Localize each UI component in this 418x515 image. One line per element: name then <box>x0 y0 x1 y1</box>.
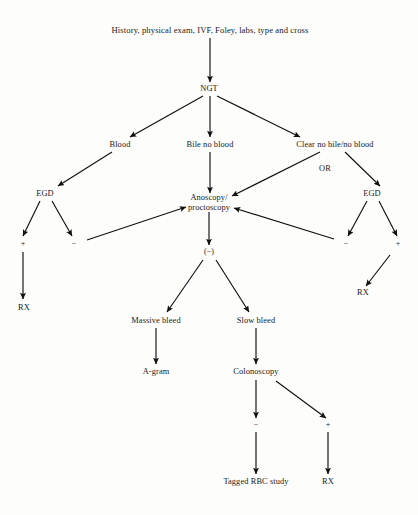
node-label-line: History, physical exam, IVF, Foley, labs… <box>112 25 309 35</box>
node-egd_left: EGD <box>36 189 54 199</box>
node-or: OR <box>319 164 331 174</box>
edge-clear-to-anoscopy <box>232 152 320 196</box>
node-label-line: + <box>21 239 26 249</box>
edge-egd_right-to-egdr_pos <box>379 201 397 236</box>
node-label-line: Bile no blood <box>187 140 234 150</box>
node-rx_right: RX <box>357 288 369 298</box>
node-label-line: Tagged RBC study <box>223 477 288 487</box>
node-slow: Slow bleed <box>237 316 275 326</box>
node-label-line: − <box>254 420 259 430</box>
node-egdr_neg: − <box>344 239 349 249</box>
node-clear: Clear no bile/no blood <box>296 140 373 150</box>
edge-egdr_neg-to-anoscopy <box>234 208 334 239</box>
edge-ano_neg-to-massive <box>167 260 203 312</box>
node-label-line: A-gram <box>143 367 170 377</box>
node-label-line: proctoscopy <box>188 203 230 213</box>
edge-colonoscopy-to-colo_pos <box>276 381 326 418</box>
node-colo_pos: + <box>326 420 331 430</box>
node-tagged: Tagged RBC study <box>223 477 288 487</box>
node-label-line: − <box>344 239 349 249</box>
node-label-line: RX <box>322 477 334 487</box>
node-label-line: EGD <box>363 189 381 199</box>
edge-ngt-to-blood <box>130 96 203 137</box>
node-label-line: + <box>326 420 331 430</box>
node-label-line: Colonoscopy <box>233 367 278 377</box>
node-label-line: − <box>72 239 77 249</box>
node-label-line: NGT <box>200 84 218 94</box>
node-label-line: Blood <box>110 140 131 150</box>
node-label-line: Massive bleed <box>131 316 180 326</box>
node-label-line: OR <box>319 164 331 174</box>
node-anoscopy: Anoscopy/proctoscopy <box>188 193 230 212</box>
node-label-line: (−) <box>204 247 214 257</box>
edge-ano_neg-to-slow <box>216 260 249 312</box>
node-egd_right: EGD <box>363 189 381 199</box>
node-blood: Blood <box>110 140 131 150</box>
node-egdr_pos: + <box>396 239 401 249</box>
node-initial: History, physical exam, IVF, Foley, labs… <box>112 25 309 35</box>
edge-egdr_pos-to-rx_right <box>366 255 390 286</box>
node-colo_neg: − <box>254 420 259 430</box>
edge-egd_left-to-egdl_pos <box>23 201 40 236</box>
edge-ngt-to-clear <box>217 96 300 137</box>
edge-egdl_neg-to-anoscopy <box>87 207 186 240</box>
node-colonoscopy: Colonoscopy <box>233 367 278 377</box>
node-ano_neg: (−) <box>204 247 214 257</box>
node-label-line: Clear no bile/no blood <box>296 140 373 150</box>
node-egdl_pos: + <box>21 239 26 249</box>
node-label-line: + <box>396 239 401 249</box>
node-rx_left: RX <box>18 303 30 313</box>
node-egdl_neg: − <box>72 239 77 249</box>
node-ngt: NGT <box>200 84 218 94</box>
node-massive: Massive bleed <box>131 316 180 326</box>
node-bile: Bile no blood <box>187 140 234 150</box>
flowchart-canvas: History, physical exam, IVF, Foley, labs… <box>0 0 418 515</box>
node-label-line: RX <box>18 303 30 313</box>
node-label-line: RX <box>357 288 369 298</box>
node-agram: A-gram <box>143 367 170 377</box>
node-label-line: Slow bleed <box>237 316 275 326</box>
node-label-line: Anoscopy/ <box>188 193 230 203</box>
node-label-line: EGD <box>36 189 54 199</box>
node-rx_bottom: RX <box>322 477 334 487</box>
flowchart-edges <box>0 0 418 515</box>
edge-clear-to-egd_right <box>345 152 380 186</box>
edge-egd_left-to-egdl_neg <box>52 201 72 236</box>
edge-egd_right-to-egdr_neg <box>348 201 367 236</box>
edge-blood-to-egd_left <box>58 152 112 186</box>
